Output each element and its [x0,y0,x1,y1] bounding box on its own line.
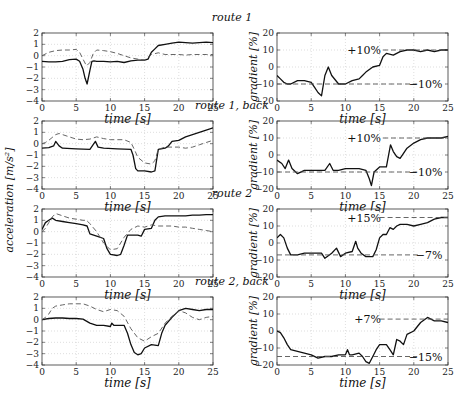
y-tick-label: 1 [33,215,39,225]
plot-route-2-back-acceleration: 0510152025−4−3−2−1012time [s] [26,292,219,390]
series-reference [42,49,213,66]
x-tick-label: 25 [207,367,219,377]
series-measured [42,215,213,256]
x-tick-label: 5 [308,367,314,377]
y-tick-label: −4 [26,184,40,194]
annotation-upper: +10% [347,132,381,145]
plot-route-2-acceleration: 0510152025−4−3−2−1012time [s] [26,204,219,302]
panel-title: route 1 [212,11,252,24]
x-tick-label: 0 [39,103,45,113]
x-tick-label: 0 [274,279,280,289]
y-tick-label: 20 [263,28,275,38]
series-measured [42,42,213,84]
y-axis-label-gradient: gradient [%] [247,119,260,190]
series-measured [42,128,213,172]
shared-ylabel-acceleration: acceleration [m/s²] [3,147,16,253]
x-tick-label: 0 [39,279,45,289]
y-tick-label: 20 [263,204,275,214]
axes-frame [42,121,213,189]
x-tick-label: 20 [408,191,420,201]
plot-route-1-gradient: 0510152025−20−1001020time [s]gradient [%… [247,28,454,126]
y-tick-label: 10 [263,221,275,231]
y-tick-label: −2 [26,249,39,259]
y-tick-label: −4 [26,96,40,106]
x-tick-label: 5 [73,103,79,113]
y-axis-label-gradient: gradient [%] [247,31,260,102]
x-tick-label: 25 [207,191,219,201]
x-tick-label: 20 [173,279,185,289]
plot-route-2-back-gradient: 0510152025−20−1001020time [s]gradient [%… [247,292,454,390]
x-tick-label: 20 [408,367,420,377]
annotation-lower: −15% [409,351,443,364]
y-tick-label: −1 [26,150,39,160]
y-tick-label: −2 [26,161,39,171]
y-tick-label: −1 [26,62,39,72]
x-tick-label: 20 [408,103,420,113]
y-tick-label: −3 [26,173,40,183]
y-tick-label: 20 [263,116,275,126]
y-tick-label: 10 [263,133,275,143]
annotation-upper: +7% [354,313,381,326]
y-tick-label: 0 [33,139,39,149]
x-tick-label: 5 [73,279,79,289]
plot-route-1-back-gradient: 0510152025−20−1001020time [s]gradient [%… [247,116,454,214]
y-tick-label: 0 [268,326,274,336]
figure-canvas: route 1route 1, backroute 2route 2, back… [0,0,464,395]
x-tick-label: 5 [73,191,79,201]
y-tick-label: −2 [26,337,39,347]
annotation-upper: +10% [347,44,381,57]
y-tick-label: −3 [26,261,40,271]
x-tick-label: 5 [308,103,314,113]
y-tick-label: 10 [263,309,275,319]
y-axis-label-gradient: gradient [%] [247,207,260,278]
y-tick-label: 2 [33,292,39,302]
plot-route-1-acceleration: 0510152025−4−3−2−1012time [s] [26,28,219,126]
x-tick-label: 20 [408,279,420,289]
x-tick-label: 0 [274,367,280,377]
x-axis-label: time [s] [104,376,151,390]
x-tick-label: 20 [173,103,185,113]
y-tick-label: 0 [33,227,39,237]
series-reference [42,304,213,341]
panels: 0510152025−4−3−2−1012time [s]0510152025−… [26,28,454,390]
annotation-lower: −7% [416,249,443,262]
x-tick-label: 25 [442,367,454,377]
x-tick-label: 5 [308,279,314,289]
x-tick-label: 25 [207,103,219,113]
y-tick-label: 0 [268,62,274,72]
x-axis-label: time [s] [104,200,151,214]
x-tick-label: 25 [442,103,454,113]
x-tick-label: 25 [442,279,454,289]
y-tick-label: 2 [33,204,39,214]
x-axis-label: time [s] [339,376,386,390]
y-tick-label: −4 [26,360,40,370]
y-tick-label: −3 [26,349,40,359]
y-tick-label: 0 [33,315,39,325]
annotation-lower: −10% [409,78,443,91]
y-tick-label: −1 [26,238,39,248]
y-tick-label: 2 [33,28,39,38]
x-axis-label: time [s] [104,288,151,302]
series-measured [42,308,213,355]
x-tick-label: 0 [39,191,45,201]
y-tick-label: −2 [26,73,39,83]
y-tick-label: 10 [263,45,275,55]
y-tick-label: 1 [33,127,39,137]
x-axis-label: time [s] [339,288,386,302]
plot-route-2-gradient: 0510152025−20−1001020time [s]gradient [%… [247,204,454,302]
annotation-lower: −10% [409,166,443,179]
y-tick-label: 0 [268,150,274,160]
x-axis-label: time [s] [104,112,151,126]
y-tick-label: −1 [26,326,39,336]
y-tick-label: 20 [263,292,275,302]
axes-frame [42,297,213,365]
axes-frame [42,209,213,277]
y-tick-label: 0 [268,238,274,248]
y-tick-label: 1 [33,303,39,313]
x-tick-label: 5 [73,367,79,377]
x-tick-label: 25 [207,279,219,289]
x-tick-label: 20 [173,191,185,201]
x-tick-label: 20 [173,367,185,377]
x-axis-label: time [s] [339,112,386,126]
plot-route-1-back-acceleration: 0510152025−4−3−2−1012time [s] [26,116,219,214]
